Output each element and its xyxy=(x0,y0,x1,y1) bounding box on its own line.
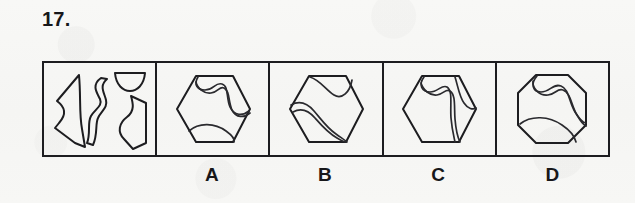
piece-angular-concave-block xyxy=(120,96,146,149)
option-a-label: A xyxy=(155,163,268,191)
question-panel-strip xyxy=(42,61,610,157)
piece-small-bowl xyxy=(115,73,145,91)
pieces-panel xyxy=(44,63,157,155)
option-a-panel[interactable] xyxy=(157,63,270,155)
question-number: 17. xyxy=(42,8,70,31)
option-b-panel[interactable] xyxy=(270,63,383,155)
option-d-inner-lines xyxy=(520,76,586,142)
pieces-panel-label xyxy=(42,163,155,191)
option-b-label: B xyxy=(268,163,381,191)
option-d-octagon-outline xyxy=(518,75,586,143)
option-c-label: C xyxy=(382,163,495,191)
piece-curved-crescent-wedge xyxy=(55,75,85,147)
piece-wavy-s-strip xyxy=(87,78,107,145)
option-c-panel[interactable] xyxy=(384,63,497,155)
option-c-hexagon-outline xyxy=(403,76,476,142)
option-c-inner-lines xyxy=(421,77,476,142)
option-d-panel[interactable] xyxy=(497,63,608,155)
option-d-label: D xyxy=(495,163,610,191)
option-a-inner-lines xyxy=(189,77,250,142)
option-labels-row: A B C D xyxy=(42,163,610,191)
option-b-inner-lines xyxy=(291,77,352,142)
